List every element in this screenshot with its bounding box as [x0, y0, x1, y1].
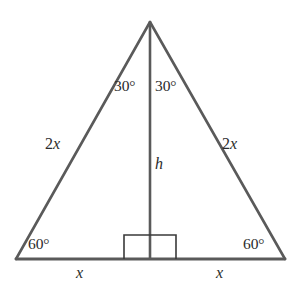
side-left-coefficient: 2 — [45, 135, 53, 152]
right-angle-marker-left — [124, 235, 150, 259]
side-left-variable: x — [53, 135, 60, 152]
triangle-side-left — [16, 22, 150, 259]
right-angle-marker-right — [150, 235, 176, 259]
base-segment-label-right: x — [216, 265, 223, 281]
base-segment-label-left: x — [76, 265, 83, 281]
angle-label-base-left: 60° — [28, 236, 49, 252]
side-length-label-right: 2x — [222, 136, 237, 152]
angle-label-base-right: 60° — [243, 236, 264, 252]
triangle-side-right — [150, 22, 285, 259]
angle-label-apex-right: 30° — [155, 78, 176, 94]
angle-label-apex-left: 30° — [114, 78, 135, 94]
side-right-coefficient: 2 — [222, 135, 230, 152]
side-right-variable: x — [230, 135, 237, 152]
side-length-label-left: 2x — [45, 136, 60, 152]
height-label: h — [155, 156, 163, 172]
geometry-diagram-canvas: 30° 30° 2x 2x h 60° 60° x x — [0, 0, 301, 294]
